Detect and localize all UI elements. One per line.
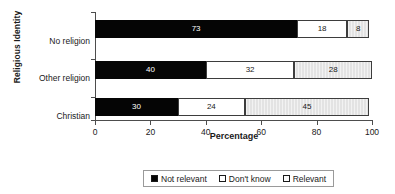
bar-segment-relevant: 8 — [347, 20, 369, 38]
bar-segment-not-relevant: 73 — [95, 20, 297, 38]
x-axis-tick-100 — [372, 121, 373, 125]
bar-value-label: 32 — [246, 66, 255, 74]
legend-swatch-dont-know — [219, 175, 226, 182]
x-axis-line — [95, 120, 373, 121]
bar-segment-not-relevant: 40 — [95, 61, 206, 79]
x-axis-tick-20 — [150, 121, 151, 125]
x-axis-tick-60 — [261, 121, 262, 125]
bar-value-label: 40 — [146, 66, 155, 74]
bar-segment-relevant: 28 — [294, 61, 372, 79]
bar-segment-don-t-know: 18 — [297, 20, 347, 38]
bar-value-label: 28 — [329, 66, 338, 74]
bar-segment-don-t-know: 32 — [206, 61, 295, 79]
legend-label-relevant: Relevant — [293, 174, 327, 184]
legend-swatch-relevant — [283, 175, 290, 182]
bar-segment-not-relevant: 30 — [95, 98, 178, 116]
bar-value-label: 45 — [302, 103, 311, 111]
y-axis-tick-labels: No religion Other religion Christian — [14, 12, 90, 120]
bar-value-label: 73 — [192, 25, 201, 33]
y-axis-tick-0 — [91, 12, 95, 13]
x-axis-tick-40 — [206, 121, 207, 125]
bar-value-label: 24 — [207, 103, 216, 111]
legend-swatch-not-relevant — [151, 175, 158, 182]
y-axis-tick-1 — [91, 59, 95, 60]
y-tick-label-no-religion: No religion — [14, 36, 90, 46]
bar-segment-don-t-know: 24 — [178, 98, 244, 116]
bar-value-label: 18 — [318, 25, 327, 33]
x-axis-tick-0 — [95, 121, 96, 125]
bar-segment-relevant: 45 — [245, 98, 370, 116]
y-tick-label-christian: Christian — [14, 111, 90, 121]
legend-item-not-relevant[interactable]: Not relevant — [151, 174, 207, 184]
stacked-bar-chart: Religious Identity No religion Other rel… — [0, 0, 395, 194]
y-tick-label-other-religion: Other religion — [14, 73, 90, 83]
x-axis-title: Percentage — [95, 131, 373, 141]
legend-item-relevant[interactable]: Relevant — [283, 174, 327, 184]
x-axis-tick-80 — [317, 121, 318, 125]
legend-label-dont-know: Don't know — [229, 174, 271, 184]
legend-item-dont-know[interactable]: Don't know — [219, 174, 271, 184]
plot-area: 0 20 40 60 80 100 73188 403228 302445 — [95, 12, 372, 120]
legend-label-not-relevant: Not relevant — [161, 174, 207, 184]
bar-value-label: 8 — [356, 25, 360, 33]
chart-legend: Not relevant Don't know Relevant — [143, 170, 334, 187]
bar-value-label: 30 — [132, 103, 141, 111]
